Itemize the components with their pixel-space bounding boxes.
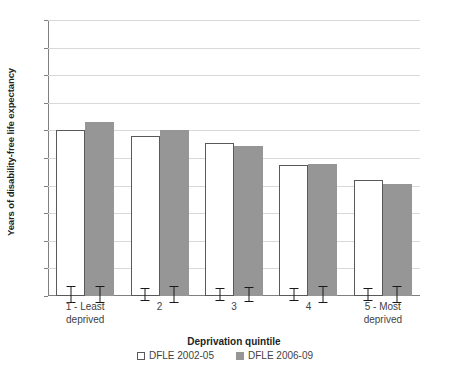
y-axis-tick: [44, 296, 48, 297]
x-axis-category-labels: 1 - Leastdeprived2345 - Mostdeprived: [48, 300, 420, 332]
gridline: [48, 296, 420, 297]
x-axis-category-label: 2: [122, 300, 196, 332]
error-bar-cap-upper: [66, 286, 75, 287]
error-bar-cap-upper: [95, 286, 104, 287]
legend-swatch-icon: [137, 352, 145, 360]
y-axis-title: Years of disability-free life expectancy: [2, 4, 18, 300]
error-bar-cap-upper: [318, 286, 327, 287]
bar: [131, 136, 160, 296]
error-bar-cap-upper: [170, 286, 179, 287]
bar-pair: [48, 20, 122, 296]
chart-legend: DFLE 2002-05DFLE 2006-09: [0, 350, 450, 361]
bar: [234, 146, 263, 296]
legend-item: DFLE 2002-05: [137, 350, 214, 361]
bar-group: [271, 20, 345, 296]
bar: [205, 143, 234, 296]
bar-pair: [197, 20, 271, 296]
bar-pair: [122, 20, 196, 296]
bar: [85, 122, 114, 296]
legend-label: DFLE 2006-09: [248, 350, 313, 361]
error-bar-cap-upper: [244, 287, 253, 288]
x-axis-category-label: 4: [271, 300, 345, 332]
x-axis-category-label: 5 - Mostdeprived: [346, 300, 420, 332]
error-bar-cap-upper: [289, 288, 298, 289]
dfle-deprivation-bar-chart: Years of disability-free life expectancy…: [0, 0, 450, 367]
legend-label: DFLE 2002-05: [149, 350, 214, 361]
bar-group: [346, 20, 420, 296]
bar-group: [122, 20, 196, 296]
bar-group: [197, 20, 271, 296]
error-bar-cap-upper: [215, 288, 224, 289]
x-axis-category-label: 1 - Leastdeprived: [48, 300, 122, 332]
plot-area: 02468101214161820: [48, 20, 420, 296]
x-axis-category-label: 3: [197, 300, 271, 332]
error-bar-cap-upper: [364, 288, 373, 289]
bar: [160, 130, 189, 296]
bar: [56, 130, 85, 296]
bar: [383, 184, 412, 296]
legend-swatch-icon: [236, 352, 244, 360]
bar-groups: [48, 20, 420, 296]
error-bar-cap-upper: [141, 288, 150, 289]
bar-pair: [271, 20, 345, 296]
x-axis-title: Deprivation quintile: [48, 336, 420, 347]
bar: [354, 180, 383, 296]
bar: [279, 165, 308, 296]
bar-pair: [346, 20, 420, 296]
bar-group: [48, 20, 122, 296]
error-bar-cap-upper: [393, 286, 402, 287]
bar: [308, 164, 337, 296]
legend-item: DFLE 2006-09: [236, 350, 313, 361]
